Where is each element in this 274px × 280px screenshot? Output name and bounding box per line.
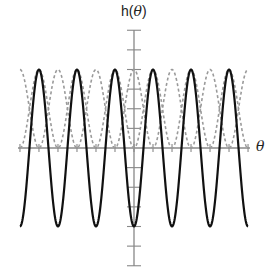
y-axis-label: h(θ)	[121, 3, 147, 19]
chart-plot	[0, 0, 274, 280]
x-axis-label: θ	[256, 138, 264, 154]
